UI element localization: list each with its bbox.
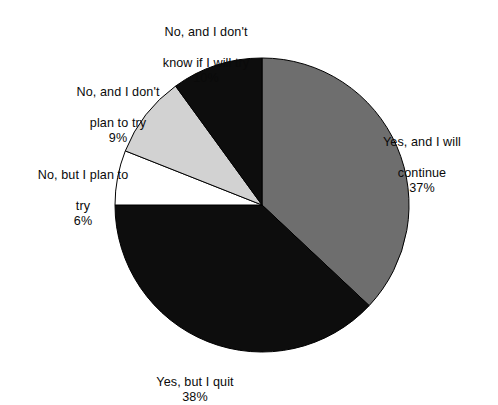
pie-label-text: Yes, and I will bbox=[383, 135, 461, 149]
pie-label-yes-but-i-quit: Yes, but I quit 38% bbox=[100, 360, 290, 405]
pie-label-value: 38% bbox=[100, 390, 290, 405]
pie-label-value: 10% bbox=[122, 71, 290, 86]
pie-label-no-and-i-dont-know-if-i-will-try: No, and I don't know if I will try 10% bbox=[122, 10, 290, 101]
pie-chart: Yes, and I will continue 37% Yes, but I … bbox=[0, 0, 498, 405]
pie-label-text: try bbox=[76, 199, 90, 213]
pie-label-no-but-i-plan-to-try: No, but I plan to try 6% bbox=[8, 153, 158, 244]
pie-label-value: 9% bbox=[42, 131, 194, 146]
pie-label-value: 37% bbox=[360, 181, 484, 196]
pie-label-text: Yes, but I quit bbox=[156, 375, 233, 389]
pie-label-text: No, but I plan to bbox=[38, 168, 129, 182]
pie-label-text: know if I will try bbox=[163, 56, 249, 70]
pie-label-value: 6% bbox=[8, 214, 158, 229]
pie-label-yes-and-i-will-continue: Yes, and I will continue 37% bbox=[360, 120, 484, 211]
pie-label-text: plan to try bbox=[90, 116, 146, 130]
pie-label-text: No, and I don't bbox=[164, 25, 247, 39]
pie-label-text: continue bbox=[398, 166, 446, 180]
